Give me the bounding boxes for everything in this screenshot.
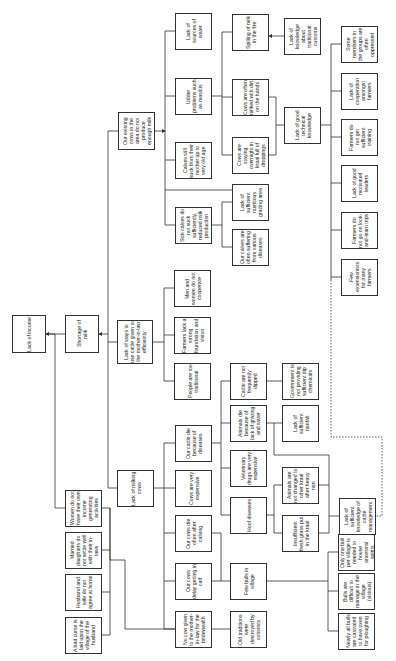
node-no-cow-bridewealth: No cow given to the mother-in-law for th… [175, 611, 212, 648]
node-gov-dip-chemicals: Government is not providing sufficient d… [282, 363, 319, 400]
node-lack-cooperation: Lack of cooperation amongst farmers [341, 73, 378, 110]
node-delay-in-calf: Our cows delay getting in calf [175, 563, 212, 600]
node-few-bulls: Few bulls in village [230, 563, 267, 600]
node-lack-knowledge-customs: Lack of knowledge about traditional cust… [284, 18, 321, 55]
node-udder-problems: Udder problems such as mastitis [175, 78, 212, 115]
node-lack-technical-knowledge: Lack of good technical knowledge [284, 107, 321, 144]
node-too-traditional: People are too traditional [174, 363, 211, 400]
node-milked-dirt-hands: Cows are often milked with dirt on the h… [232, 79, 269, 116]
node-bad-curse: A bad curse is laid upon the village of … [65, 617, 102, 654]
node-husband-wife-disagree: Husband and wife do not agree at home [65, 574, 102, 611]
node-not-changed-kraal: Animals are not changed to other kraal a… [282, 467, 319, 504]
node-lack-sources-water: Lack of sources of water [175, 13, 212, 50]
node-members-oppressed: Some members in the groups are often opp… [341, 26, 378, 63]
node-cows-expensive: Cows are very expensive [175, 470, 212, 507]
node-bulls-difficult: Bulls are difficult to manage in the vil… [338, 573, 375, 610]
node-calves-diseases: Our calves are often suffering from vari… [232, 229, 269, 266]
node-bulls-castrated: Nearly all bulls are castrated to have o… [338, 613, 375, 650]
node-die-lack-grazing-water: Animals die because of lack of grazing a… [230, 405, 267, 442]
node-spilling-milk: Spilling of milk in the fire [232, 14, 269, 51]
node-cows-not-enough-milk: Our existing cows in the area do not pro… [118, 112, 155, 150]
node-few-extensionists: Few extensionists for many farmers [341, 259, 378, 296]
node-no-learn-trips: Farmers do not go on look-and-learn trip… [341, 212, 378, 249]
node-shortage-of-milk: Shortage of milk [65, 315, 99, 353]
node-lack-cattle-management: Lack of sufficient knowledge of cattle m… [339, 498, 376, 535]
node-kraal-droppings: Cows are staying overnight in kraal full… [232, 137, 269, 174]
node-lack-of-ways-use-cattle: Lack of ways to use cattle given to the … [117, 320, 153, 364]
node-lack-of-income: Lack of income [12, 315, 46, 353]
node-sick-calves: Sick calves do not suck sufficiently, re… [175, 207, 212, 244]
node-vet-drugs-expensive: Veterinary drugs are very expensive [230, 450, 267, 487]
node-lack-foundation-vision: Farmers lack a strong foundation and vis… [174, 317, 211, 354]
node-men-women-cooperate: Men and women do not cooperate [174, 270, 211, 307]
node-women-no-income: Women do not have their own income gener… [65, 490, 102, 527]
problem-tree-diagram: Lack of income Shortage of milk Lack of … [0, 0, 396, 661]
node-insufficient-training: Farmers do not get sufficient training [341, 119, 378, 156]
node-lack-grazing-area: Lack of sufficient nutritious grazing ar… [232, 184, 269, 221]
node-daughters-in-laws: Married daughters do not settle well wit… [65, 532, 102, 569]
node-not-dipped: Cattle are not frequently dipped [230, 363, 267, 400]
node-lack-leaders: Lack of good motivated leaders [341, 165, 378, 202]
node-hoof-diseases: Hoof diseases [230, 497, 267, 534]
node-cows-die-calving: Our cows die often after calving [175, 515, 212, 552]
node-lack-rainfall: Lack of sufficient rainfall [282, 405, 319, 442]
node-one-bull-ancestral: Only one bull per village is needed to h… [338, 534, 375, 571]
node-lack-milking-cows: Lack of milking cows [117, 470, 154, 507]
node-calves-still-suck: Calves still suck from their mother up t… [175, 142, 212, 179]
node-old-traditions-destroyed: Old traditions were destroyed by colonis… [230, 611, 267, 648]
node-insufficient-fresh-grass: Insufficient fresh grass put in the kraa… [282, 515, 319, 552]
node-cattle-die-diseases: Our cattle die because of diseases [175, 425, 212, 462]
